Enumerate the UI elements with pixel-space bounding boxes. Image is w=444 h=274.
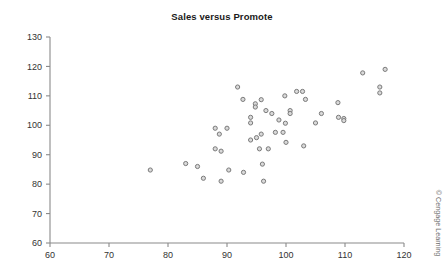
data-point <box>236 85 240 89</box>
data-point <box>148 168 152 172</box>
x-tick-label: 70 <box>104 250 114 260</box>
data-point <box>259 98 263 102</box>
y-tick-label: 90 <box>32 150 42 160</box>
data-point <box>195 164 199 168</box>
y-tick-label: 110 <box>28 91 42 101</box>
data-point <box>261 179 265 183</box>
data-point <box>259 132 263 136</box>
x-tick-label: 60 <box>45 250 55 260</box>
data-point <box>264 108 268 112</box>
data-point <box>213 147 217 151</box>
data-point <box>288 111 292 115</box>
data-point <box>361 71 365 75</box>
data-point <box>219 149 223 153</box>
data-point <box>383 67 387 71</box>
data-point <box>249 115 253 119</box>
plot-canvas: 60708090100110120130 60708090100110120 <box>0 0 444 274</box>
axes <box>50 37 404 243</box>
data-point <box>277 118 281 122</box>
data-point <box>225 126 229 130</box>
y-tick-label: 100 <box>27 120 42 130</box>
y-tick-label: 80 <box>32 179 42 189</box>
data-point <box>201 176 205 180</box>
data-point <box>241 97 245 101</box>
data-point <box>378 91 382 95</box>
data-point <box>249 138 253 142</box>
data-point <box>313 121 317 125</box>
data-point <box>283 121 287 125</box>
data-point <box>254 136 258 140</box>
data-point <box>184 161 188 165</box>
scatter-plot-figure: Sales versus Promote 6070809010011012013… <box>0 0 444 274</box>
x-tick-label: 90 <box>222 250 232 260</box>
data-point <box>257 147 261 151</box>
data-point <box>303 97 307 101</box>
data-point <box>219 179 223 183</box>
x-axis-ticks: 60708090100110120 <box>45 243 412 260</box>
data-point <box>266 147 270 151</box>
x-tick-label: 80 <box>163 250 173 260</box>
data-point <box>249 121 253 125</box>
y-tick-label: 60 <box>32 238 42 248</box>
x-tick-label: 120 <box>396 250 411 260</box>
credit-container: © Cengage Learning <box>432 175 444 271</box>
data-point <box>284 140 288 144</box>
x-tick-label: 110 <box>338 250 352 260</box>
copyright-label: © Cengage Learning <box>434 190 443 256</box>
y-tick-label: 120 <box>27 62 42 72</box>
data-point <box>213 126 217 130</box>
x-tick-label: 100 <box>278 250 293 260</box>
data-point <box>300 89 304 93</box>
data-point <box>302 144 306 148</box>
data-point <box>227 168 231 172</box>
data-point <box>281 130 285 134</box>
data-point <box>270 111 274 115</box>
y-tick-label: 70 <box>32 209 42 219</box>
data-point <box>336 115 340 119</box>
data-point <box>295 89 299 93</box>
data-point <box>241 170 245 174</box>
data-point <box>283 94 287 98</box>
data-point <box>260 162 264 166</box>
data-point <box>342 118 346 122</box>
data-point-group <box>148 67 387 183</box>
data-point <box>253 105 257 109</box>
data-point <box>336 101 340 105</box>
data-point <box>319 111 323 115</box>
data-point <box>273 130 277 134</box>
data-point <box>217 132 221 136</box>
data-point <box>378 85 382 89</box>
y-tick-label: 130 <box>27 32 42 42</box>
y-axis-ticks: 60708090100110120130 <box>27 32 50 248</box>
